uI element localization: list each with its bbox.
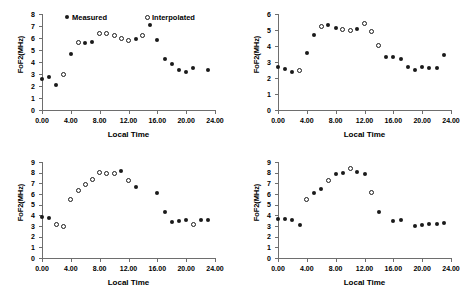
- data-point-interpolated: [76, 40, 81, 45]
- y-tickmark: [275, 183, 278, 184]
- data-point-interpolated: [369, 190, 374, 195]
- y-tickmark: [275, 62, 278, 63]
- x-tick-label: 16.00: [144, 117, 170, 124]
- x-tickmark: [278, 111, 279, 114]
- data-point-interpolated: [61, 72, 66, 77]
- y-tickmark: [39, 38, 42, 39]
- x-tick-label: 20.00: [173, 117, 199, 124]
- x-tick-label: 24.00: [438, 265, 464, 272]
- y-tickmark: [39, 162, 42, 163]
- y-tick-label: 0: [257, 255, 271, 262]
- data-point-measured: [163, 57, 167, 61]
- x-tick-label: 24.00: [202, 265, 228, 272]
- data-point-interpolated: [76, 188, 81, 193]
- y-tickmark: [275, 237, 278, 238]
- plot-region: 0123456780.004.008.0012.0016.0020.0024.0…: [0, 0, 236, 148]
- data-point-measured: [413, 224, 417, 228]
- data-point-measured: [170, 220, 174, 224]
- chart-panel-3: 01234567890.004.008.0012.0016.0020.0024.…: [0, 148, 236, 296]
- data-point-measured: [413, 68, 417, 72]
- y-tickmark: [275, 14, 278, 15]
- data-point-measured: [90, 40, 94, 44]
- x-tickmark: [422, 111, 423, 114]
- chart-panel-2: 01234560.004.008.0012.0016.0020.0024.00F…: [236, 0, 472, 148]
- data-point-interpolated: [369, 29, 374, 34]
- figure-fof2-diurnal-panels: 0123456780.004.008.0012.0016.0020.0024.0…: [0, 0, 472, 296]
- x-tickmark: [100, 259, 101, 262]
- data-point-measured: [40, 77, 44, 81]
- y-tickmark: [275, 226, 278, 227]
- data-point-measured: [427, 66, 431, 70]
- y-axis-line: [278, 162, 279, 259]
- data-point-measured: [420, 223, 424, 227]
- x-tick-label: 12.00: [352, 265, 378, 272]
- data-point-interpolated: [97, 31, 102, 36]
- data-point-measured: [334, 172, 338, 176]
- data-point-measured: [163, 210, 167, 214]
- x-tickmark: [100, 111, 101, 114]
- x-tickmark: [157, 111, 158, 114]
- data-point-measured: [363, 172, 367, 176]
- y-tickmark: [39, 14, 42, 15]
- x-tickmark: [71, 259, 72, 262]
- y-tickmark: [39, 237, 42, 238]
- y-tickmark: [275, 78, 278, 79]
- data-point-measured: [184, 218, 188, 222]
- data-point-interpolated: [304, 197, 309, 202]
- data-point-interpolated: [319, 24, 324, 29]
- data-point-interpolated: [119, 36, 124, 41]
- y-axis-title: FoF2(MHz): [252, 158, 261, 248]
- data-point-measured: [148, 23, 152, 27]
- data-point-measured: [199, 218, 203, 222]
- x-tick-label: 0.00: [265, 265, 291, 272]
- x-tick-label: 20.00: [409, 117, 435, 124]
- x-tick-label: 12.00: [352, 117, 378, 124]
- x-tickmark: [307, 259, 308, 262]
- x-tickmark: [278, 259, 279, 262]
- data-point-measured: [54, 83, 58, 87]
- y-tickmark: [275, 30, 278, 31]
- data-point-interpolated: [68, 197, 73, 202]
- y-axis-title: FoF2(MHz): [16, 158, 25, 248]
- x-axis-title: Local Time: [42, 130, 215, 139]
- y-tickmark: [275, 205, 278, 206]
- data-point-measured: [399, 57, 403, 61]
- data-point-measured: [283, 67, 287, 71]
- y-tickmark: [39, 74, 42, 75]
- data-point-measured: [283, 217, 287, 221]
- x-tick-label: 24.00: [438, 117, 464, 124]
- data-point-interpolated: [90, 177, 95, 182]
- y-tickmark: [39, 205, 42, 206]
- x-tick-label: 4.00: [294, 117, 320, 124]
- chart-panel-1: 0123456780.004.008.0012.0016.0020.0024.0…: [0, 0, 236, 148]
- data-point-interpolated: [348, 166, 353, 171]
- data-point-measured: [177, 219, 181, 223]
- data-point-measured: [391, 219, 395, 223]
- x-axis-title: Local Time: [278, 130, 451, 139]
- data-point-measured: [47, 75, 51, 79]
- y-tickmark: [275, 46, 278, 47]
- x-tickmark: [157, 259, 158, 262]
- x-tick-label: 24.00: [202, 117, 228, 124]
- data-point-interpolated: [83, 182, 88, 187]
- x-tickmark: [71, 111, 72, 114]
- data-point-measured: [435, 66, 439, 70]
- x-tick-label: 20.00: [409, 265, 435, 272]
- x-tick-label: 16.00: [380, 117, 406, 124]
- x-tick-label: 0.00: [29, 117, 55, 124]
- data-point-measured: [184, 70, 188, 74]
- x-tick-label: 4.00: [58, 265, 84, 272]
- data-point-interpolated: [112, 33, 117, 38]
- data-point-measured: [206, 218, 210, 222]
- data-point-measured: [134, 185, 138, 189]
- x-tick-label: 8.00: [87, 117, 113, 124]
- y-tick-label: 0: [21, 255, 35, 262]
- legend-marker-interpolated: [145, 15, 150, 20]
- chart-panel-4: 01234567890.004.008.0012.0016.0020.0024.…: [236, 148, 472, 296]
- data-point-interpolated: [126, 38, 131, 43]
- plot-region: 01234567890.004.008.0012.0016.0020.0024.…: [236, 148, 472, 296]
- y-tickmark: [275, 173, 278, 174]
- data-point-measured: [420, 65, 424, 69]
- data-point-interpolated: [340, 27, 345, 32]
- y-tickmark: [39, 98, 42, 99]
